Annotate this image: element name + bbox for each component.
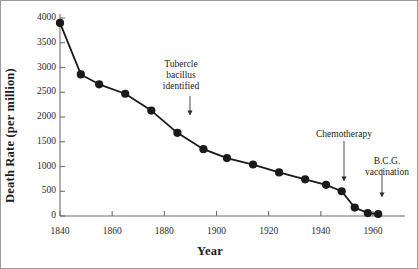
y-axis-tick-label: 3500 xyxy=(22,37,56,47)
x-axis-tick-label: 1900 xyxy=(197,226,237,236)
y-axis-tick-label: 4000 xyxy=(22,12,56,22)
chart-annotation: Tuberclebacillusidentified xyxy=(151,59,211,92)
data-point xyxy=(338,187,346,195)
chart-annotation: Chemotherapy xyxy=(309,129,379,140)
x-axis-tick-label: 1860 xyxy=(92,226,132,236)
data-point xyxy=(199,145,207,153)
y-axis-tick-label: 0 xyxy=(22,210,56,220)
y-axis-tick-label: 1000 xyxy=(22,161,56,171)
y-axis-tick-label: 500 xyxy=(22,185,56,195)
data-point xyxy=(301,175,309,183)
data-point xyxy=(364,209,372,217)
data-point xyxy=(322,181,330,189)
chart-figure: Death Rate (per million) Year 0500100015… xyxy=(0,0,418,269)
x-axis-tick-label: 1840 xyxy=(40,226,80,236)
chart-annotation-line: bacillus xyxy=(151,70,211,81)
chart-annotation-line: Chemotherapy xyxy=(309,129,379,140)
x-axis-tick-label: 1960 xyxy=(353,226,393,236)
x-axis-tick-label: 1940 xyxy=(301,226,341,236)
data-point xyxy=(95,80,103,88)
chart-annotation-line: vaccination xyxy=(359,167,415,178)
chart-annotation-line: Tubercle xyxy=(151,59,211,70)
data-point xyxy=(351,203,359,211)
y-axis-tick-label: 2500 xyxy=(22,86,56,96)
y-axis-tick-label: 3000 xyxy=(22,62,56,72)
y-axis-tick-label: 1500 xyxy=(22,136,56,146)
data-point xyxy=(249,160,257,168)
data-point xyxy=(275,168,283,176)
x-axis-tick-label: 1920 xyxy=(249,226,289,236)
data-point xyxy=(374,210,382,218)
data-point xyxy=(77,70,85,78)
chart-annotation-line: identified xyxy=(151,81,211,92)
data-point xyxy=(121,90,129,98)
chart-annotation-line: B.C.G. xyxy=(359,156,415,167)
data-point xyxy=(56,19,64,27)
chart-annotation: B.C.G.vaccination xyxy=(359,156,415,178)
y-axis-tick-label: 2000 xyxy=(22,111,56,121)
x-axis-tick-label: 1880 xyxy=(144,226,184,236)
data-point xyxy=(223,154,231,162)
data-point xyxy=(173,129,181,137)
data-point xyxy=(147,106,155,114)
